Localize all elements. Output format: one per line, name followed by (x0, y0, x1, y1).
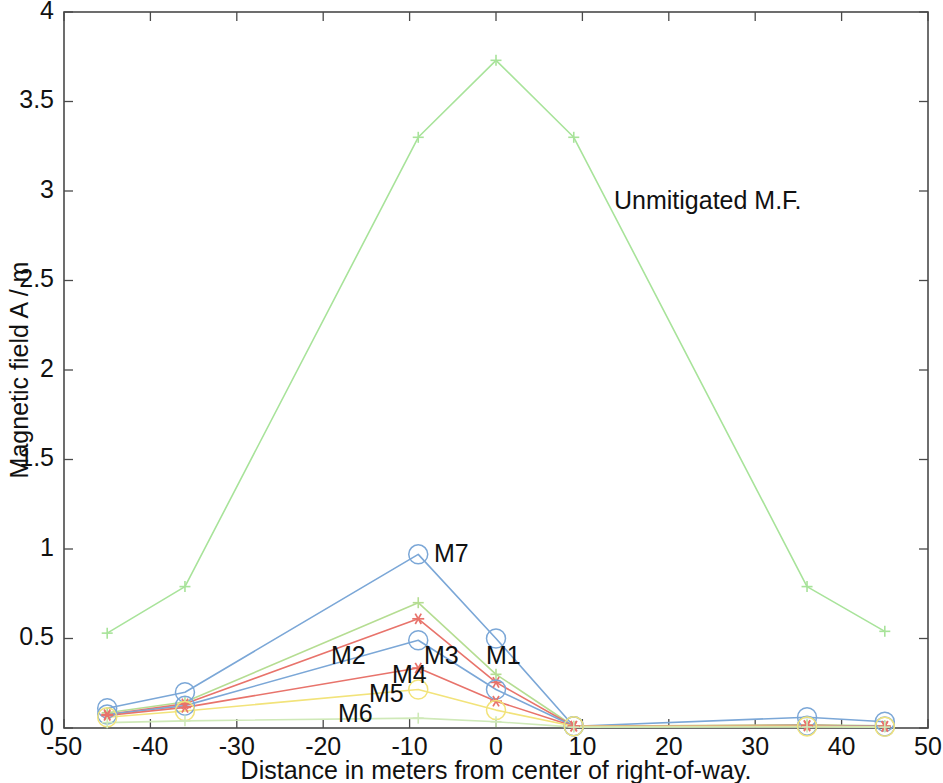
data-point-m6 (491, 716, 502, 727)
m2-label: M2 (331, 641, 366, 669)
series-layer (107, 60, 885, 727)
marker-layer (98, 55, 895, 736)
data-point-m6 (802, 721, 813, 732)
data-point-m6 (413, 713, 424, 724)
y-axis-ticks (64, 12, 928, 728)
x-tick-label: 40 (828, 732, 856, 760)
x-tick-label: -40 (132, 732, 168, 760)
unmitigated-label: Unmitigated M.F. (614, 186, 802, 214)
chart-figure: -50-40-30-20-1001020304050 00.511.522.53… (0, 0, 943, 783)
series-annotations: Unmitigated M.F.M7M2M3M1M4M5M6 (331, 186, 802, 727)
y-tick-label: 1 (40, 533, 54, 561)
y-tick-label: 4 (40, 0, 54, 24)
data-point-unmitigated-m-f (879, 626, 890, 637)
magnetic-field-line-chart: -50-40-30-20-1001020304050 00.511.522.53… (0, 0, 943, 783)
x-axis-title: Distance in meters from center of right-… (241, 756, 752, 783)
data-point-m6 (179, 715, 190, 726)
m1-label: M1 (486, 641, 521, 669)
m3-label: M3 (424, 641, 459, 669)
y-axis-title: Magnetic field A / m (5, 262, 33, 479)
m5-label: M5 (369, 679, 404, 707)
y-tick-label: 3 (40, 175, 54, 203)
plot-frame (64, 12, 928, 728)
y-tick-label: 3.5 (19, 85, 54, 113)
series-line-unmitigated-m-f (107, 60, 885, 633)
m7-label: M7 (434, 539, 469, 567)
m6-label: M6 (338, 699, 373, 727)
x-axis-ticks (64, 12, 928, 728)
y-tick-label: 0 (40, 712, 54, 740)
data-point-unmitigated-m-f (179, 581, 190, 592)
data-point-unmitigated-m-f (802, 581, 813, 592)
y-tick-label: 0.5 (19, 622, 54, 650)
y-tick-label: 2 (40, 354, 54, 382)
data-point-unmitigated-m-f (102, 628, 113, 639)
x-tick-label: 50 (914, 732, 942, 760)
